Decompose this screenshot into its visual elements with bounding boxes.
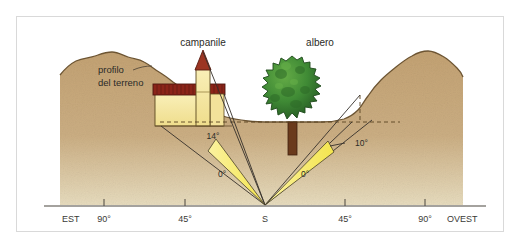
tree-trunk	[288, 122, 297, 155]
axis-label-est: EST	[62, 214, 80, 224]
axis-label-ovest: OVEST	[447, 214, 478, 224]
label-albero: albero	[306, 37, 334, 48]
figure-root: campanile albero profilo del terreno 14°…	[0, 0, 520, 246]
angle-label-hill-base: 0°	[301, 169, 309, 179]
bell-tower-shaft	[196, 68, 210, 126]
angle-label-hill-top: 10°	[355, 138, 368, 148]
axis-label-45-west: 45°	[338, 214, 352, 224]
azimuth-axis-labels: EST 90° 45° S 45° 90° OVEST	[62, 214, 478, 224]
axis-label-s: S	[262, 214, 268, 224]
label-profilo-line1: profilo	[98, 64, 124, 75]
axis-label-90-east: 90°	[97, 214, 111, 224]
church-building	[153, 50, 232, 126]
angle-label-tower-top: 14°	[207, 131, 220, 141]
axis-label-90-west: 90°	[418, 214, 432, 224]
terrain-profile-diagram: campanile albero profilo del terreno 14°…	[0, 0, 520, 246]
label-profilo-line2: del terreno	[98, 77, 143, 88]
label-campanile: campanile	[180, 37, 226, 48]
angle-label-tower-base: 0°	[218, 169, 226, 179]
tree-foliage	[262, 56, 321, 119]
axis-label-45-east: 45°	[178, 214, 192, 224]
